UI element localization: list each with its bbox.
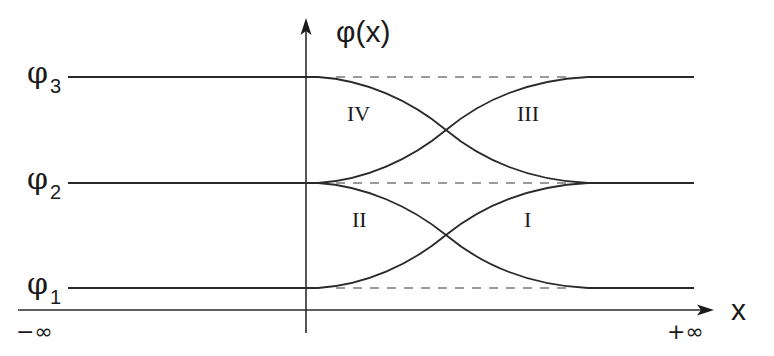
y-axis-label-text: φ(x) <box>336 15 390 48</box>
phi-symbol: φ <box>27 266 48 301</box>
x-max-label: +∞ <box>667 321 704 343</box>
phi-subscript: 1 <box>50 286 61 308</box>
region-label-iv: IV <box>347 103 370 125</box>
y-axis-label: φ(x) <box>336 17 390 47</box>
kink-curve-upper-ascending <box>306 77 588 183</box>
x-axis-label: x <box>731 295 746 325</box>
kink-diagram <box>0 0 774 356</box>
level-label-phi3: φ3 <box>27 58 61 88</box>
region-label-iii: III <box>517 103 539 125</box>
phi-symbol: φ <box>27 55 48 90</box>
kink-curve-lower-descending <box>306 183 588 288</box>
level-label-phi1: φ1 <box>27 269 61 299</box>
x-min-label: −∞ <box>16 321 53 343</box>
phi-subscript: 3 <box>50 75 61 97</box>
phi-symbol: φ <box>27 161 48 196</box>
level-label-phi2: φ2 <box>27 164 61 194</box>
region-label-ii: II <box>352 209 367 231</box>
region-label-i: I <box>524 209 531 231</box>
phi-subscript: 2 <box>50 181 61 203</box>
